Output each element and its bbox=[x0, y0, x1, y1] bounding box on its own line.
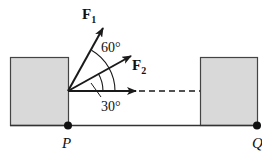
label-f1: F1 bbox=[82, 6, 96, 25]
point-q-dot bbox=[253, 122, 261, 130]
label-f2: F2 bbox=[132, 57, 146, 76]
label-point-q: Q bbox=[252, 135, 262, 151]
angle-arc-30 bbox=[98, 74, 103, 92]
point-p-dot bbox=[64, 122, 72, 130]
label-point-p: P bbox=[61, 135, 71, 151]
label-angle-30: 30° bbox=[101, 99, 121, 114]
force-diagram: F1 F2 60° 30° P Q bbox=[0, 0, 262, 152]
label-angle-60: 60° bbox=[101, 40, 121, 55]
left-block bbox=[11, 58, 69, 126]
right-block bbox=[201, 58, 258, 126]
